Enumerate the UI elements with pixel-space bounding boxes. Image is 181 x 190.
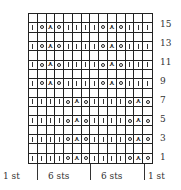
chart-cell (90, 51, 99, 60)
chart-cell (117, 33, 126, 42)
chart-cell (117, 79, 126, 88)
chart-cell (126, 126, 135, 135)
chart-cell (29, 33, 38, 42)
chart-cell (134, 42, 143, 51)
chart-cell (117, 98, 126, 107)
chart-cell (108, 154, 117, 163)
chart-cell (126, 107, 135, 116)
chart-cell (55, 14, 64, 23)
chart-cell (126, 61, 135, 70)
row-label-9: 9 (160, 77, 166, 86)
chart-cell (99, 135, 108, 144)
chart-cell (64, 61, 73, 70)
chart-cell (99, 89, 108, 98)
chart-cell (73, 42, 82, 51)
chart-cell (99, 116, 108, 125)
chart-cell: ⋏ (47, 61, 56, 70)
double-decrease-icon: ⋏ (135, 155, 141, 162)
chart-cell (99, 154, 108, 163)
chart-cell (134, 126, 143, 135)
chart-cell (73, 126, 82, 135)
chart-cell: ⋏ (47, 42, 56, 51)
yarn-over-icon (57, 25, 61, 29)
chart-cell (29, 98, 38, 107)
double-decrease-icon: ⋏ (109, 61, 115, 68)
chart-cell (134, 14, 143, 23)
chart-cell (64, 107, 73, 116)
chart-cell (55, 70, 64, 79)
yarn-over-icon (40, 63, 44, 67)
chart-cell (90, 23, 99, 32)
chart-cell (90, 89, 99, 98)
chart-cell (47, 33, 56, 42)
chart-cell (90, 116, 99, 125)
knit-icon (68, 81, 69, 86)
chart-cell (117, 42, 126, 51)
knit-icon (50, 118, 51, 123)
chart-cell (47, 51, 56, 60)
chart-cell (73, 79, 82, 88)
knit-icon (59, 99, 60, 104)
chart-cell (38, 70, 47, 79)
chart-cell (73, 107, 82, 116)
chart-cell (134, 79, 143, 88)
double-decrease-icon: ⋏ (74, 155, 80, 162)
chart-cell (64, 89, 73, 98)
knit-icon (111, 118, 112, 123)
chart-cell (134, 33, 143, 42)
chart-cell (55, 144, 64, 153)
chart-cell (134, 51, 143, 60)
yarn-over-icon (101, 25, 105, 29)
chart-cell (108, 116, 117, 125)
chart-cell (73, 33, 82, 42)
chart-cell (73, 144, 82, 153)
knit-icon (129, 81, 130, 86)
chart-cell (38, 42, 47, 51)
chart-cell (38, 79, 47, 88)
chart-cell (117, 14, 126, 23)
knit-icon (41, 99, 42, 104)
double-decrease-icon: ⋏ (74, 117, 80, 124)
edge-stitch-label-left: 1 st (3, 171, 20, 181)
chart-cell (29, 144, 38, 153)
chart-cell (47, 14, 56, 23)
knit-icon (59, 118, 60, 123)
chart-cell (55, 126, 64, 135)
chart-cell (47, 107, 56, 116)
knit-icon (68, 62, 69, 67)
chart-cell (126, 42, 135, 51)
chart-cell (55, 51, 64, 60)
yarn-over-icon (66, 119, 70, 123)
chart-cell (29, 42, 38, 51)
chart-cell (90, 79, 99, 88)
chart-cell: ⋏ (108, 79, 117, 88)
knit-icon (138, 44, 139, 49)
chart-cell (38, 98, 47, 107)
chart-cell (99, 51, 108, 60)
knit-icon (111, 137, 112, 142)
chart-cell (126, 89, 135, 98)
yarn-over-icon (66, 156, 70, 160)
knit-icon (111, 156, 112, 161)
chart-cell (143, 135, 152, 144)
chart-cell (117, 126, 126, 135)
knit-icon (50, 99, 51, 104)
chart-cell (90, 107, 99, 116)
chart-cell (38, 33, 47, 42)
double-decrease-icon: ⋏ (48, 43, 54, 50)
chart-cell (99, 107, 108, 116)
knit-icon (103, 156, 104, 161)
chart-cell (73, 51, 82, 60)
chart-cell (143, 98, 152, 107)
chart-cell (134, 107, 143, 116)
double-decrease-icon: ⋏ (74, 136, 80, 143)
chart-cell: ⋏ (134, 116, 143, 125)
chart-cell (38, 61, 47, 70)
chart-cell (82, 51, 91, 60)
chart-cell (143, 42, 152, 51)
chart-cell (29, 61, 38, 70)
knit-icon (32, 44, 33, 49)
chart-cell (64, 154, 73, 163)
chart-cell (126, 98, 135, 107)
chart-cell (117, 135, 126, 144)
